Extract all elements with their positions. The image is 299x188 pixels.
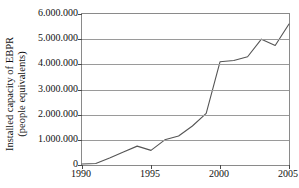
y-axis-tick-label: 5.000.000 [30, 33, 78, 43]
y-axis-tick-mark [78, 115, 82, 116]
y-axis-tick-mark [78, 90, 82, 91]
gridline [82, 90, 289, 91]
y-axis-title-line-2: (people equivalents) [15, 37, 27, 151]
y-axis-tick-label: 6.000.000 [30, 8, 78, 18]
gridline [82, 39, 289, 40]
y-axis-title-line-1: Installed capacity of EBPR [4, 37, 16, 151]
chart-figure: Installed capacity of EBPR (people equiv… [0, 0, 299, 188]
x-axis-tick-label: 1990 [61, 168, 101, 179]
gridline [82, 115, 289, 116]
x-axis-tick-labels: 1990199520002005 [81, 168, 289, 184]
y-axis-tick-labels: 01.000.0002.000.0003.000.0004.000.0005.0… [28, 0, 78, 188]
plot-area [81, 13, 290, 166]
y-axis-tick-label: 4.000.000 [30, 58, 78, 68]
y-axis-tick-label: 1.000.000 [30, 134, 78, 144]
y-axis-tick-mark [78, 39, 82, 40]
y-axis-tick-label: 2.000.000 [30, 109, 78, 119]
x-axis-tick-label: 2005 [268, 168, 299, 179]
gridline [82, 64, 289, 65]
gridline [82, 140, 289, 141]
y-axis-tick-label: 3.000.000 [30, 84, 78, 94]
x-axis-tick-label: 1995 [130, 168, 170, 179]
y-axis-tick-mark [78, 140, 82, 141]
y-axis-tick-mark [78, 64, 82, 65]
y-axis-title: Installed capacity of EBPR (people equiv… [0, 0, 30, 188]
x-axis-tick-label: 2000 [199, 168, 239, 179]
y-axis-tick-mark [78, 14, 82, 15]
